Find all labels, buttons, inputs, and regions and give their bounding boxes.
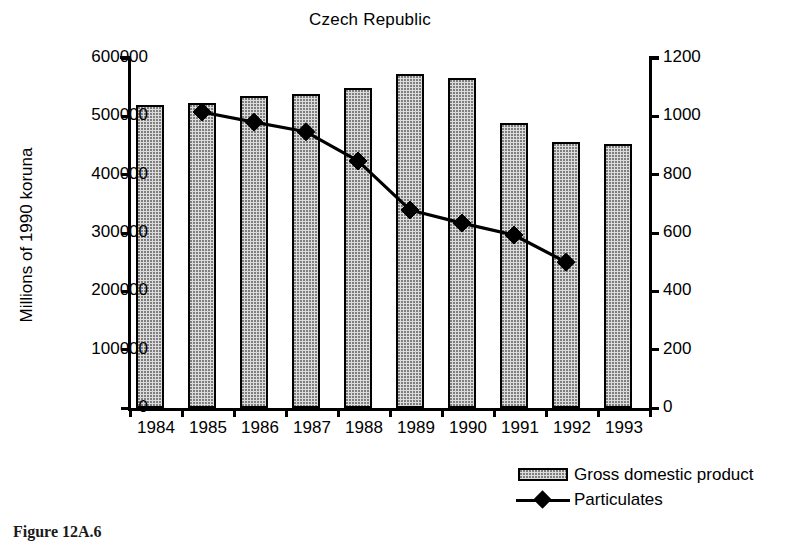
left-axis-tick-label: 600000	[91, 47, 148, 67]
bar-1991	[500, 123, 528, 408]
left-axis-tick-label: 500000	[91, 105, 148, 125]
right-axis-tick-label: 400	[663, 280, 691, 300]
x-axis-category-label: 1988	[338, 418, 390, 438]
legend-label-gross-domestic-product: Gross domestic product	[574, 465, 754, 485]
figure-caption: Figure 12A.6	[13, 523, 102, 541]
bar-1985	[188, 103, 216, 408]
x-axis-tick	[389, 408, 392, 417]
bar-1988	[344, 88, 372, 408]
bar-1989	[396, 74, 424, 408]
x-axis-category-label: 1991	[494, 418, 546, 438]
x-axis-tick	[337, 408, 340, 417]
left-axis-tick-label: 0	[139, 397, 148, 417]
chart-legend: Gross domestic product Particulates	[512, 462, 802, 512]
right-axis-tick	[651, 348, 659, 351]
right-axis-tick	[651, 407, 659, 410]
right-axis-tick	[651, 57, 659, 60]
left-axis-tick-label: 300000	[91, 222, 148, 242]
bar-1984	[136, 105, 164, 408]
x-axis-category-label: 1989	[390, 418, 442, 438]
bar-1987	[292, 94, 320, 408]
right-axis-tick-label: 1200	[663, 47, 701, 67]
x-axis-tick	[441, 408, 444, 417]
right-axis-tick-label: 200	[663, 339, 691, 359]
left-axis-tick-label: 200000	[91, 280, 148, 300]
x-axis-category-label: 1993	[598, 418, 650, 438]
left-axis-tick-label: 100000	[91, 339, 148, 359]
legend-item-particulates: Particulates	[512, 487, 802, 512]
bar-1992	[552, 142, 580, 408]
right-axis-tick-label: 1000	[663, 105, 701, 125]
right-axis-tick	[651, 115, 659, 118]
x-axis-category-label: 1990	[442, 418, 494, 438]
x-axis-category-label: 1984	[130, 418, 182, 438]
plot-area	[130, 58, 650, 408]
x-axis-category-label: 1985	[182, 418, 234, 438]
x-axis-tick	[597, 408, 600, 417]
right-axis-tick-label: 800	[663, 164, 691, 184]
bar-swatch-icon	[512, 468, 574, 481]
bar-1986	[240, 96, 268, 408]
right-axis-tick-label: 600	[663, 222, 691, 242]
x-axis-tick	[181, 408, 184, 417]
x-axis-category-label: 1987	[286, 418, 338, 438]
x-axis-tick	[493, 408, 496, 417]
legend-item-gross-domestic-product: Gross domestic product	[512, 462, 802, 487]
x-axis-category-label: 1986	[234, 418, 286, 438]
figure-root: Czech Republic Millions of 1990 koruna 1…	[0, 0, 807, 541]
left-axis-title: Millions of 1990 koruna	[17, 115, 37, 355]
bar-1993	[604, 144, 632, 408]
bar-1990	[448, 78, 476, 408]
right-axis-tick	[651, 232, 659, 235]
left-axis-tick-label: 400000	[91, 164, 148, 184]
x-axis-tick	[233, 408, 236, 417]
right-axis-tick-label: 0	[663, 397, 672, 417]
x-axis-tick	[649, 408, 652, 417]
x-axis-tick	[129, 408, 132, 417]
legend-label-particulates: Particulates	[574, 490, 663, 510]
right-axis-tick	[651, 290, 659, 293]
chart-title: Czech Republic	[0, 10, 740, 30]
x-axis-tick	[285, 408, 288, 417]
line-diamond-swatch-icon	[512, 492, 574, 508]
right-axis-tick	[651, 173, 659, 176]
x-axis-tick	[545, 408, 548, 417]
x-axis-category-label: 1992	[546, 418, 598, 438]
